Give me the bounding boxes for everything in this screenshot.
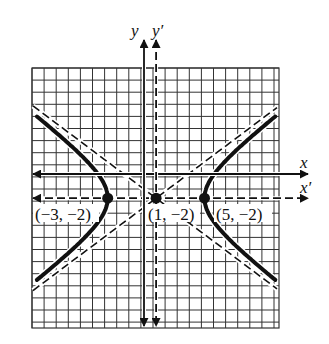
left-vertex-dot: [102, 193, 113, 204]
right-vertex-label: (5, −2): [216, 205, 262, 224]
hyperbola-figure: y y′ x x′ (−3, −2) (1, −2) (5, −2): [0, 0, 329, 344]
x-prime-axis-label: x′: [299, 178, 312, 197]
right-vertex-dot: [199, 193, 210, 204]
y-prime-axis-label: y′: [150, 21, 164, 40]
center-label: (1, −2): [148, 205, 194, 224]
x-axis-label: x: [299, 153, 308, 172]
left-vertex-label: (−3, −2): [35, 205, 91, 224]
y-axis-label: y: [129, 21, 139, 40]
center-dot: [151, 193, 162, 204]
